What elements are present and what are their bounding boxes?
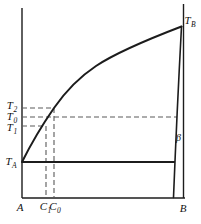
label-a: A bbox=[17, 202, 24, 213]
label-c1-base: C bbox=[40, 200, 47, 212]
label-t1: T1 bbox=[7, 122, 17, 133]
label-t1-base: T bbox=[7, 121, 13, 133]
label-tb-sub: B bbox=[191, 19, 196, 28]
phase-diagram-figure: TB T2 T0 T1 TA β A C1 C0 B bbox=[0, 0, 201, 224]
label-c0-base: C bbox=[49, 200, 56, 212]
liquidus-curve bbox=[22, 27, 182, 163]
label-t1-sub: 1 bbox=[13, 126, 17, 135]
label-tb: TB bbox=[184, 15, 195, 26]
label-c0: C0 bbox=[49, 201, 61, 212]
label-tb-base: T bbox=[184, 14, 190, 26]
label-ta-base: T bbox=[5, 155, 11, 167]
diagram-canvas bbox=[0, 0, 201, 224]
label-ta-sub: A bbox=[12, 160, 17, 169]
label-ta: TA bbox=[5, 156, 16, 167]
label-c0-sub: 0 bbox=[57, 205, 61, 214]
label-beta: β bbox=[176, 133, 181, 143]
beta-boundary-curve bbox=[174, 27, 182, 198]
label-b: B bbox=[180, 203, 187, 214]
